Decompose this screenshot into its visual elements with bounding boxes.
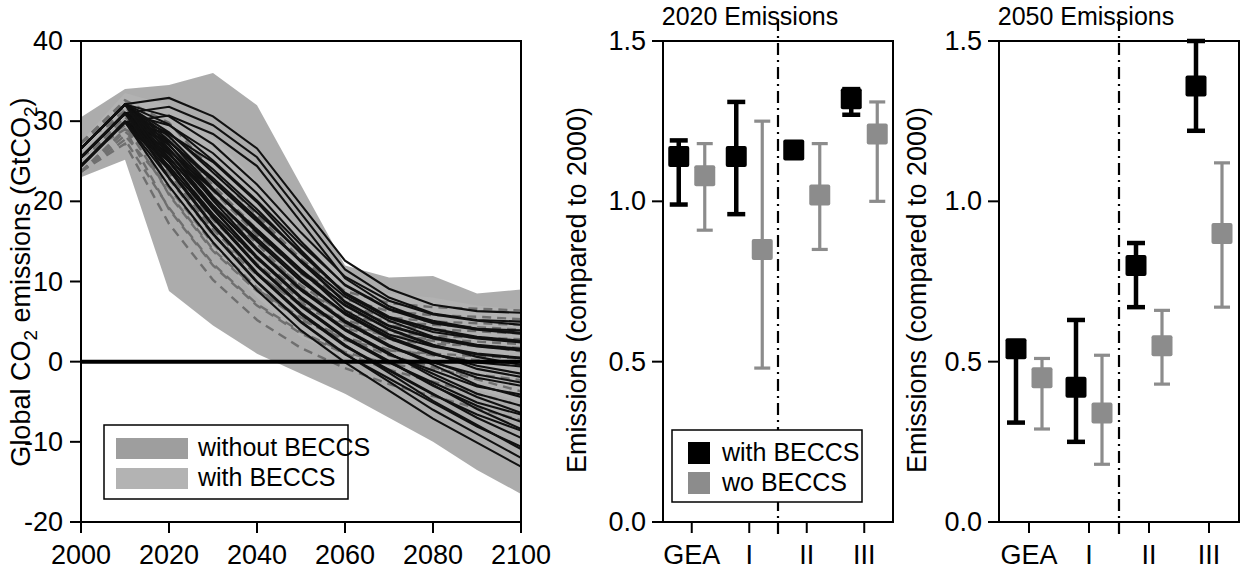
errorbar-point: [809, 144, 830, 250]
legend-label-with-beccs: with BECCS: [721, 438, 860, 466]
mid-y-tick-group: 0.00.51.01.5: [608, 26, 663, 537]
left-y-tick-label: 20: [33, 186, 63, 216]
right-x-tick-label-iii: III: [1198, 540, 1221, 569]
right-y-tick-label: 1.5: [944, 26, 982, 56]
errorbar-point: [1186, 41, 1207, 131]
data-marker-with-beccs: [783, 140, 804, 161]
errorbar-point: [1006, 338, 1027, 422]
errorbar-point: [1032, 358, 1053, 429]
errorbar-point: [1212, 163, 1233, 307]
left-x-tick-label: 2100: [491, 540, 551, 569]
left-y-tick-label: -10: [24, 427, 63, 457]
left-x-tick-label: 2000: [51, 540, 111, 569]
data-marker-with-beccs: [841, 88, 862, 109]
errorbar-point: [867, 102, 888, 201]
panel-2020-emissions: 2020 Emissions Emissions (compared to 20…: [560, 0, 910, 569]
mid-x-tick-label-i: I: [745, 540, 753, 569]
left-x-tick-label: 2060: [315, 540, 375, 569]
mid-y-tick-label: 1.0: [608, 186, 646, 216]
data-marker-wo-beccs: [867, 123, 888, 144]
mid-legend: with BECCS wo BECCS: [672, 430, 862, 502]
right-y-axis-label: Emissions (compared to 2000): [902, 107, 932, 473]
errorbar-point: [1152, 310, 1173, 384]
legend-label-with-beccs: with BECCS: [197, 463, 336, 491]
right-y-tick-group: 0.00.51.01.5: [944, 26, 999, 537]
data-marker-wo-beccs: [809, 184, 830, 205]
data-marker-wo-beccs: [1212, 223, 1233, 244]
errorbar-point: [1092, 355, 1113, 464]
legend-label-without-beccs: without BECCS: [197, 433, 370, 461]
errorbar-point: [1126, 243, 1147, 307]
right-plot-frame: [999, 41, 1239, 522]
data-marker-wo-beccs: [1092, 402, 1113, 423]
data-marker-with-beccs: [668, 146, 689, 167]
mid-x-tick-label-ii: II: [799, 540, 814, 569]
errorbar-point: [783, 140, 804, 161]
right-x-tick-label-ii: II: [1141, 540, 1156, 569]
errorbar-point: [752, 121, 773, 368]
right-y-tick-label: 1.0: [944, 186, 982, 216]
right-y-tick-label: 0.5: [944, 347, 982, 377]
panel-global-co2-emissions: Global CO2 emissions (GtCO2) -20-1001020…: [0, 0, 560, 569]
data-marker-wo-beccs: [694, 165, 715, 186]
data-marker-wo-beccs: [1032, 367, 1053, 388]
mid-y-tick-label: 0.0: [608, 507, 646, 537]
right-x-tick-group: GEAIIIIII: [1000, 522, 1220, 569]
data-marker-with-beccs: [1066, 377, 1087, 398]
left-y-tick-label: 10: [33, 267, 63, 297]
left-legend: without BECCS with BECCS: [104, 425, 370, 499]
errorbar-point: [841, 88, 862, 115]
right-chart-svg: 2050 Emissions Emissions (compared to 20…: [900, 0, 1244, 569]
left-x-tick-label: 2020: [139, 540, 199, 569]
right-y-tick-label: 0.0: [944, 507, 982, 537]
mid-panel-title: 2020 Emissions: [662, 2, 838, 30]
right-panel-title: 2050 Emissions: [998, 2, 1174, 30]
errorbar-point: [694, 144, 715, 231]
left-chart-svg: Global CO2 emissions (GtCO2) -20-1001020…: [0, 0, 560, 569]
left-x-tick-label: 2040: [227, 540, 287, 569]
errorbar-point: [668, 140, 689, 204]
mid-x-tick-label-gea: GEA: [663, 540, 720, 569]
mid-y-tick-label: 0.5: [608, 347, 646, 377]
data-marker-wo-beccs: [752, 239, 773, 260]
legend-swatch-without-beccs: [116, 438, 188, 459]
mid-x-tick-group: GEAIIIIII: [663, 522, 875, 569]
mid-y-axis-label: Emissions (compared to 2000): [562, 107, 592, 473]
data-marker-with-beccs: [1186, 75, 1207, 96]
legend-swatch-with-beccs: [116, 468, 188, 489]
legend-label-wo-beccs: wo BECCS: [721, 468, 847, 496]
left-x-tick-group: 200020202040206020802100: [51, 522, 551, 569]
left-y-tick-label: 0: [48, 347, 63, 377]
mid-chart-svg: 2020 Emissions Emissions (compared to 20…: [560, 0, 910, 569]
legend-swatch-with-beccs: [688, 442, 710, 464]
data-marker-wo-beccs: [1152, 335, 1173, 356]
panel-2050-emissions: 2050 Emissions Emissions (compared to 20…: [900, 0, 1244, 569]
errorbar-point: [726, 102, 747, 214]
mid-y-tick-label: 1.5: [608, 26, 646, 56]
data-marker-with-beccs: [1126, 255, 1147, 276]
right-x-tick-label-gea: GEA: [1000, 540, 1057, 569]
figure-root: Global CO2 emissions (GtCO2) -20-1001020…: [0, 0, 1244, 569]
data-marker-with-beccs: [1006, 338, 1027, 359]
errorbar-point: [1066, 320, 1087, 442]
data-marker-with-beccs: [726, 146, 747, 167]
left-y-tick-label: -20: [24, 507, 63, 537]
legend-swatch-wo-beccs: [688, 472, 710, 494]
right-x-tick-label-i: I: [1085, 540, 1093, 569]
left-x-tick-label: 2080: [403, 540, 463, 569]
left-y-tick-label: 30: [33, 106, 63, 136]
left-y-tick-label: 40: [33, 26, 63, 56]
mid-x-tick-label-iii: III: [853, 540, 876, 569]
